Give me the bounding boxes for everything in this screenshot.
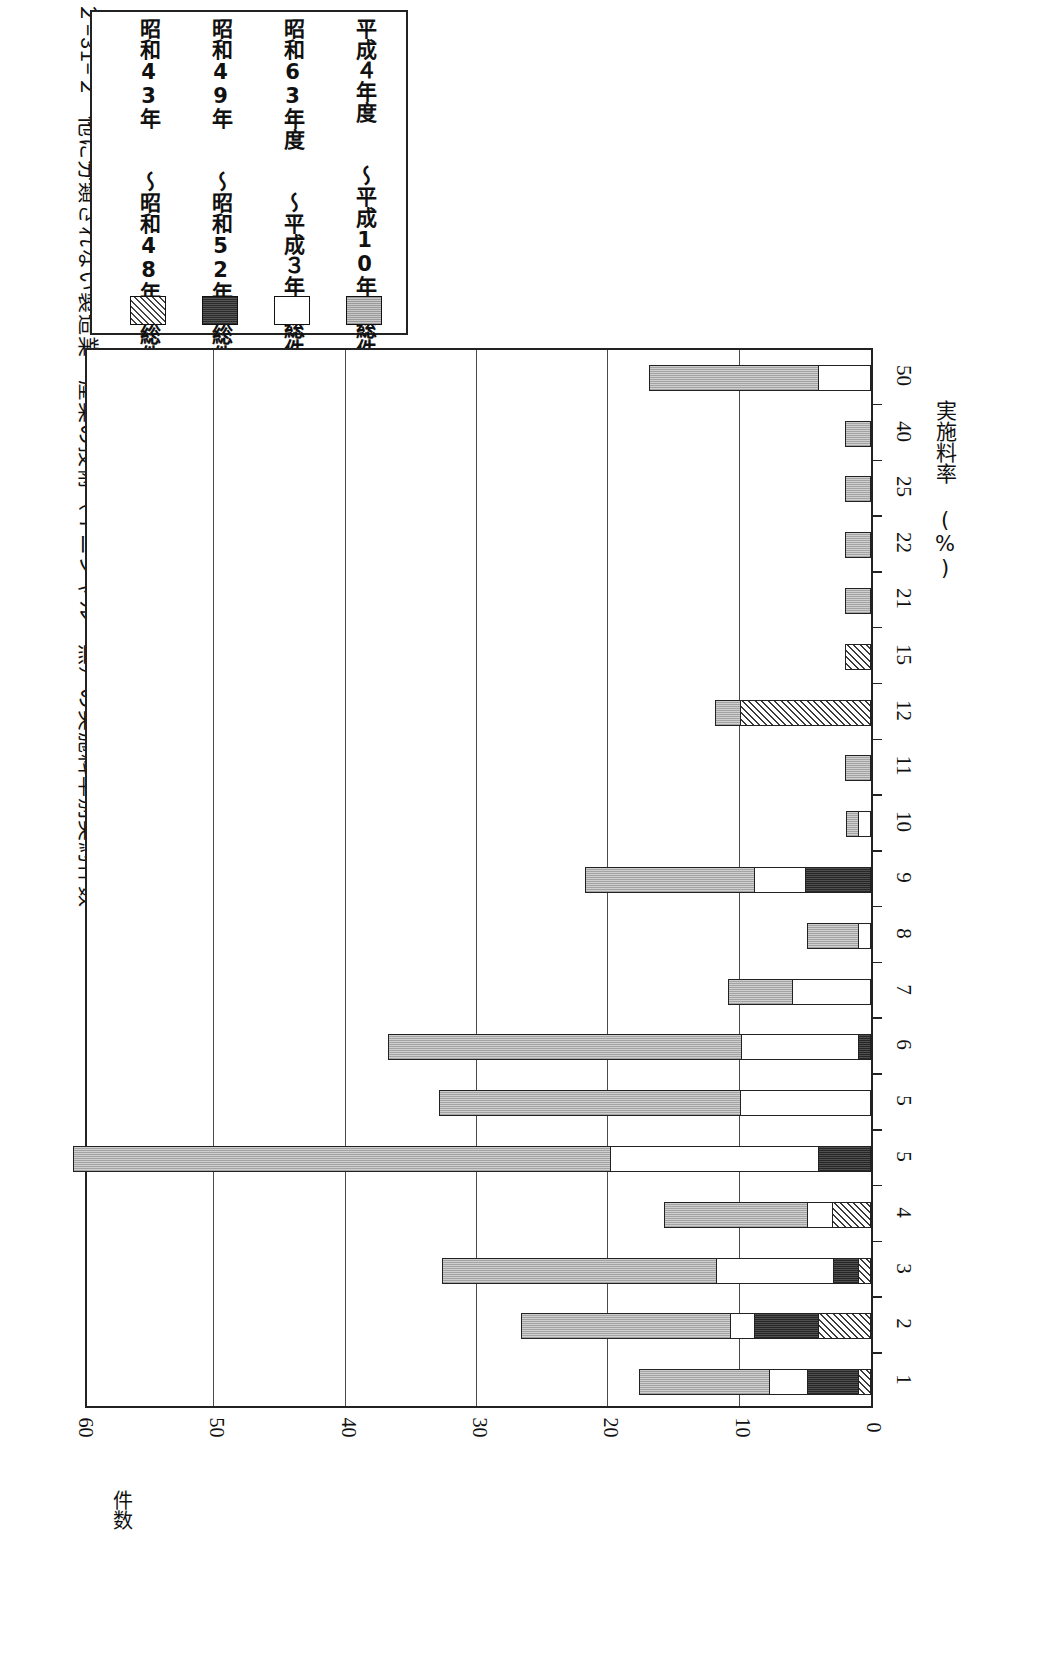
category-axis-tick <box>873 1073 882 1075</box>
legend-item-showa49_52: 昭和49年 〜昭和52年 総件数累計 <box>184 18 256 325</box>
bar-segment-light-gray-dotted <box>442 1258 718 1284</box>
category-axis-tick <box>873 1129 882 1131</box>
category-axis-tick <box>873 962 882 964</box>
category-tick-label: 6 <box>891 1022 916 1068</box>
category-axis-tick <box>873 850 882 852</box>
value-tick-label: 50 <box>205 1418 228 1438</box>
bar-segment-diagonal-hatch <box>832 1202 871 1228</box>
bar-row <box>808 923 871 949</box>
bar-row <box>522 1313 871 1339</box>
bar-segment-white <box>792 979 871 1005</box>
bar-segment-light-gray-dotted <box>585 867 756 893</box>
bar-segment-dark <box>754 1313 820 1339</box>
bar-segment-light-gray-dotted <box>664 1202 808 1228</box>
category-tick-label: 21 <box>891 576 916 622</box>
bar-segment-light-gray-dotted <box>845 755 871 781</box>
chart-area <box>85 348 873 1408</box>
category-tick-label: 2 <box>891 1301 916 1347</box>
bar-row <box>846 476 871 502</box>
value-axis-label: 件数 <box>86 1490 132 1530</box>
category-axis-tick <box>873 515 882 517</box>
bar-segment-white <box>754 867 807 893</box>
bar-row <box>848 811 871 837</box>
category-tick-label: 8 <box>891 910 916 956</box>
bar-segment-dark <box>807 1369 860 1395</box>
bar-row <box>587 867 871 893</box>
bar-segment-dark <box>818 1146 871 1172</box>
category-tick-label: 9 <box>891 855 916 901</box>
value-tick-label: 30 <box>468 1418 491 1438</box>
category-axis-tick <box>873 683 882 685</box>
category-tick-label: 22 <box>891 520 916 566</box>
legend-item-heisei4_10: 平成４年度 〜平成10年度総件数累計 <box>328 18 400 325</box>
bar-row <box>441 1090 871 1116</box>
category-axis-tick <box>873 1296 882 1298</box>
category-axis-label: 実施料率 (%) <box>930 400 960 580</box>
category-axis-tick <box>873 906 882 908</box>
bar-segment-diagonal-hatch <box>740 700 871 726</box>
bar-segment-light-gray-dotted <box>715 700 741 726</box>
category-tick-label: 50 <box>891 352 916 398</box>
category-axis-tick <box>873 627 882 629</box>
bar-row <box>846 588 871 614</box>
bar-row <box>846 421 871 447</box>
gridline <box>345 350 346 1406</box>
legend-label: 昭和43年 〜昭和48年 総件数累計 <box>138 18 159 290</box>
legend-label: 昭和63年度 〜平成３年度総件数累計 <box>282 18 303 290</box>
bar-row <box>846 532 871 558</box>
category-tick-label: 10 <box>891 799 916 845</box>
bar-segment-diagonal-hatch <box>858 1258 871 1284</box>
bar-segment-dark <box>805 867 871 893</box>
legend-label: 昭和49年 〜昭和52年 総件数累計 <box>210 18 231 290</box>
category-axis-tick <box>873 1185 882 1187</box>
category-tick-label: 5 <box>891 1078 916 1124</box>
legend-swatch-icon <box>202 296 238 325</box>
category-tick-label: 40 <box>891 408 916 454</box>
legend-swatch-icon <box>130 296 166 325</box>
legend-swatch-icon <box>346 296 382 325</box>
category-tick-label: 25 <box>891 464 916 510</box>
value-tick-label: 0 <box>862 1423 885 1433</box>
bar-segment-light-gray-dotted <box>845 532 871 558</box>
bar-segment-light-gray-dotted <box>807 923 860 949</box>
category-tick-label: 11 <box>891 743 916 789</box>
bar-segment-light-gray-dotted <box>639 1369 770 1395</box>
chart-legend: 平成４年度 〜平成10年度総件数累計昭和63年度 〜平成３年度総件数累計昭和49… <box>90 10 408 335</box>
category-tick-label: 7 <box>891 966 916 1012</box>
value-tick-label: 40 <box>336 1418 359 1438</box>
bar-row <box>716 700 871 726</box>
bar-row <box>665 1202 871 1228</box>
category-tick-label: 15 <box>891 631 916 677</box>
bar-segment-diagonal-hatch <box>845 644 871 670</box>
category-axis-tick <box>873 1241 882 1243</box>
bar-segment-white <box>716 1258 834 1284</box>
bar-segment-light-gray-dotted <box>649 365 820 391</box>
gridline <box>476 350 477 1406</box>
bar-segment-white <box>740 1090 871 1116</box>
category-axis-tick <box>873 794 882 796</box>
bar-segment-diagonal-hatch <box>818 1313 871 1339</box>
category-tick-label: 1 <box>891 1357 916 1403</box>
category-axis-tick <box>873 1017 882 1019</box>
bar-row <box>846 644 871 670</box>
category-axis-tick <box>873 739 882 741</box>
bar-row <box>846 755 871 781</box>
bar-row <box>390 1034 871 1060</box>
bar-row <box>730 979 871 1005</box>
bar-segment-white <box>730 1313 756 1339</box>
bar-segment-white <box>769 1369 808 1395</box>
bar-row <box>651 365 871 391</box>
bar-segment-light-gray-dotted <box>388 1034 743 1060</box>
value-axis: 6050403020100 <box>85 1412 873 1472</box>
category-tick-label: 4 <box>891 1189 916 1235</box>
bar-segment-white <box>858 811 871 837</box>
bar-segment-light-gray-dotted <box>845 421 871 447</box>
value-tick-label: 20 <box>599 1418 622 1438</box>
category-axis-tick <box>873 404 882 406</box>
category-tick-label: 3 <box>891 1245 916 1291</box>
category-axis-tick <box>873 571 882 573</box>
gridline <box>213 350 214 1406</box>
bar-segment-white <box>818 365 871 391</box>
category-tick-label: 12 <box>891 687 916 733</box>
bar-segment-diagonal-hatch <box>858 1369 871 1395</box>
